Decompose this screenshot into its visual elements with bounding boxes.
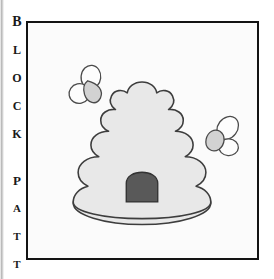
caption-letter-3: O (7, 72, 27, 84)
beehive (28, 23, 211, 224)
caption-letter-8: T (7, 231, 27, 242)
caption-letter-1: B (7, 15, 27, 29)
caption-letter-7: A (7, 203, 27, 214)
caption-letter-9: T (7, 259, 27, 270)
caption-letter-4: C (7, 100, 27, 112)
caption-letter-2: L (7, 44, 27, 56)
caption-letter-6: P (7, 174, 27, 187)
hive-entrance (126, 172, 157, 202)
page-canvas: B L O C K P A T T (0, 0, 274, 279)
illustration-frame (26, 21, 259, 260)
caption-letter-5: K (7, 128, 27, 140)
scan-edge-artifact (0, 0, 4, 279)
bee-left-icon (63, 60, 109, 107)
bee-right-icon (203, 109, 246, 159)
vertical-caption: B L O C K P A T T (7, 11, 27, 279)
beehive-illustration (28, 23, 257, 258)
